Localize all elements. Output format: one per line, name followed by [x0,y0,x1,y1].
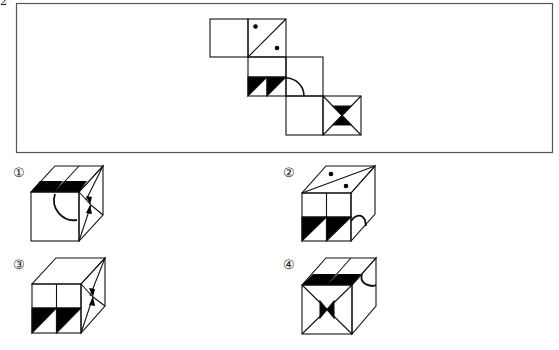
option-4-cube[interactable] [302,258,376,334]
net-face-arc [286,57,323,96]
option-2-cube[interactable] [302,166,375,241]
option-2-label[interactable]: ② [283,166,295,179]
figure-canvas [0,0,559,350]
net-face-blank-2 [286,96,323,135]
dot-icon [329,172,334,177]
option-4-label[interactable]: ④ [283,258,295,271]
net-face-hourglass [323,96,361,135]
option-1-cube[interactable] [31,166,103,241]
option-1-label[interactable]: ① [13,166,25,179]
cube-net [210,19,361,135]
dot-icon [275,46,280,51]
net-face-triangles [248,57,286,96]
option-3-cube[interactable] [32,258,105,333]
option-3-label[interactable]: ③ [13,258,25,271]
dot-icon [253,24,258,29]
net-face-dots [248,19,286,57]
dot-icon [344,184,349,189]
question-number-fragment: 2 [0,0,7,7]
net-face-blank [210,19,248,57]
